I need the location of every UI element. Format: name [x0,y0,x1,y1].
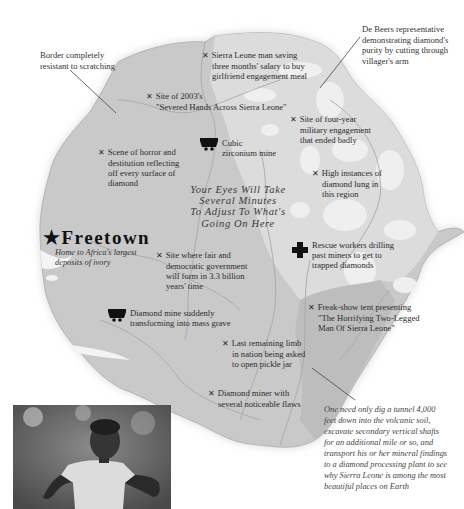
photo-image [13,405,171,509]
amputee-photo [13,405,171,509]
star-icon: ★ [43,227,62,248]
marker-cubic-zirconium-mine: Cubic zirconium mine [222,138,276,158]
x-marker-icon: ✕ [308,303,315,312]
marker-scene-of-horror: ✕Scene of horror and destitution reflect… [98,147,179,188]
marker-democratic-government: ✕Site where fair and democratic governme… [156,250,247,291]
mine-cart-icon [200,138,218,151]
marker-engagement-meal: ✕Sierra Leone man saving three months' s… [202,50,307,81]
x-marker-icon: ✕ [156,251,163,260]
marker-severed-hands: ✕Site of 2003's "Severed Hands Across Si… [146,91,287,112]
callout-border: Border completely resistant to scratchin… [40,50,115,71]
marker-military-engagement: ✕Site of four-year military engagement t… [290,114,371,145]
marker-diamond-lung: ✕High instances of diamond lung in this … [312,168,382,199]
marker-pickle-jar: ✕Last remaining limb in nation being ask… [222,338,305,369]
mine-cart-icon [108,309,126,322]
headline-your-eyes: Your Eyes Will Take Several Minutes To A… [186,184,290,229]
x-marker-icon: ✕ [312,169,319,178]
callout-de-beers: De Beers representative demonstrating di… [362,24,448,66]
x-marker-icon: ✕ [146,92,153,101]
marker-rescue-workers: Rescue workers drilling past miners to g… [312,240,394,270]
medical-cross-icon [292,242,308,258]
marker-freak-show: ✕Freak-show tent presenting "The Horrify… [308,302,420,333]
capital-subtitle: Home to Africa's largest deposits of ivo… [55,248,137,268]
callout-tunnel: One need only dig a tunnel 4,000 feet do… [324,404,447,492]
marker-mass-grave-mine: Diamond mine suddenly transforming into … [130,308,230,328]
x-marker-icon: ✕ [222,339,229,348]
x-marker-icon: ✕ [208,389,215,398]
marker-diamond-miner-flaws: ✕Diamond miner with several noticeable f… [208,388,301,409]
x-marker-icon: ✕ [98,148,105,157]
x-marker-icon: ✕ [290,115,297,124]
x-marker-icon: ✕ [202,51,209,60]
capital-freetown: ★Freetown [43,226,150,249]
